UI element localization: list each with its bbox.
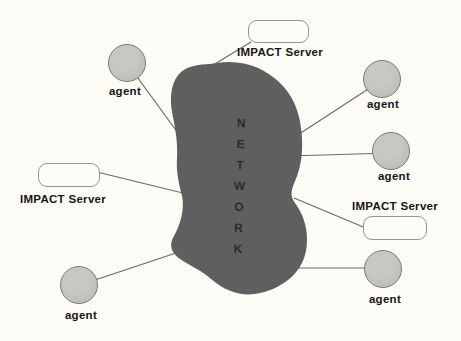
agent-label-bottom-left: agent [36, 309, 126, 321]
agent-circle-bottom-left [60, 266, 98, 304]
agent-circle-top-right [363, 60, 401, 98]
agent-circle-bottom-right [364, 250, 402, 288]
agent-label-bottom-right: agent [340, 293, 430, 305]
impact-server-label-left: IMPACT Server [18, 193, 108, 205]
impact-server-box-left [38, 163, 100, 187]
impact-server-box-top [248, 20, 309, 43]
agent-label-mid-right: agent [349, 170, 439, 182]
agent-circle-top-left [108, 44, 146, 82]
impact-server-label-top: IMPACT Server [235, 46, 325, 58]
agent-circle-mid-right [372, 132, 410, 170]
agent-label-top-right: agent [338, 98, 428, 110]
impact-server-label-right: IMPACT Server [350, 200, 440, 212]
impact-server-box-right [363, 216, 427, 240]
figure-canvas: NETWORK IMPACT Server IMPACT Server IMPA… [0, 0, 461, 341]
agent-label-top-left: agent [80, 85, 170, 97]
